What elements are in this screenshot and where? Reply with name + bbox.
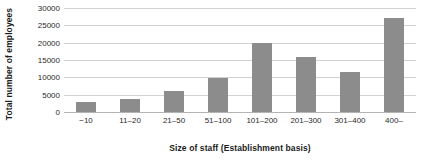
y-axis-tick-labels: 050001000015000200002500030000 — [18, 8, 64, 113]
bar-slot — [64, 8, 108, 112]
bar-slot — [328, 8, 372, 112]
bars-layer — [64, 8, 416, 112]
x-axis-tick-label: 301–400 — [328, 116, 372, 125]
bar-slot — [108, 8, 152, 112]
bar — [76, 102, 96, 112]
plot-area — [64, 8, 416, 113]
y-axis-tick-label: 25000 — [38, 21, 60, 30]
x-axis-tick-labels: −1011–2021–5051–100101–200201–300301–400… — [64, 116, 416, 130]
x-axis-tick-label: 51–100 — [196, 116, 240, 125]
bar-slot — [240, 8, 284, 112]
y-axis-tick-label: 20000 — [38, 38, 60, 47]
x-axis-tick-label: 400– — [372, 116, 416, 125]
x-axis-tick-label: 11–20 — [108, 116, 152, 125]
bar — [252, 43, 272, 112]
bar — [120, 99, 140, 112]
bar — [208, 78, 228, 112]
x-axis-tick-label: 21–50 — [152, 116, 196, 125]
y-axis-title: Total number of employees — [0, 0, 18, 128]
y-axis-tick-label: 30000 — [38, 4, 60, 13]
x-axis-tick-label: −10 — [64, 116, 108, 125]
x-axis-title: Size of staff (Establishment basis) — [64, 143, 416, 153]
bar-slot — [372, 8, 416, 112]
y-axis-tick-label: 5000 — [42, 90, 60, 99]
y-axis-tick-label: 10000 — [38, 73, 60, 82]
bar — [340, 72, 360, 112]
y-axis-tick-label: 0 — [56, 108, 60, 117]
bar-slot — [152, 8, 196, 112]
x-axis-tick-label: 101–200 — [240, 116, 284, 125]
bar-chart-figure: Total number of employees 05000100001500… — [0, 0, 428, 167]
bar — [384, 18, 404, 112]
y-axis-tick-label: 15000 — [38, 56, 60, 65]
bar — [296, 57, 316, 112]
bar — [164, 91, 184, 112]
bar-slot — [284, 8, 328, 112]
bar-slot — [196, 8, 240, 112]
y-axis-title-text: Total number of employees — [4, 8, 14, 120]
x-axis-tick-label: 201–300 — [284, 116, 328, 125]
